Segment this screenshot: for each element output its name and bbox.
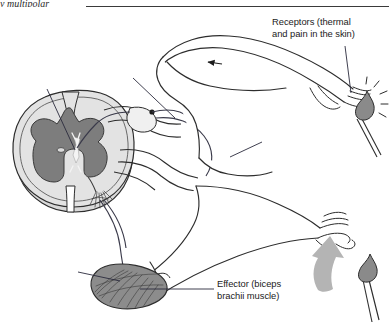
- flame-upper: [355, 91, 374, 120]
- biceps-brachii: [91, 264, 170, 309]
- receptors-label: Receptors (thermal and pain in the skin): [272, 16, 355, 39]
- match-stick-upper-a: [357, 119, 377, 157]
- anatomy-figure: y multipolar: [0, 0, 389, 324]
- arm-pointer-line: [230, 142, 262, 157]
- effector-label: Effector (biceps brachii muscle): [217, 278, 281, 301]
- muscle-belly: [91, 264, 167, 309]
- match-flame-upper: [355, 77, 388, 157]
- withdrawal-arrow: [312, 236, 344, 292]
- reflex-arc-illustration: [0, 0, 389, 324]
- anterior-median-fissure: [66, 186, 75, 212]
- match-stick-upper-b: [362, 119, 381, 155]
- flame-lower: [358, 254, 377, 282]
- central-canal: [57, 148, 65, 153]
- match-flame-lower: [358, 254, 379, 322]
